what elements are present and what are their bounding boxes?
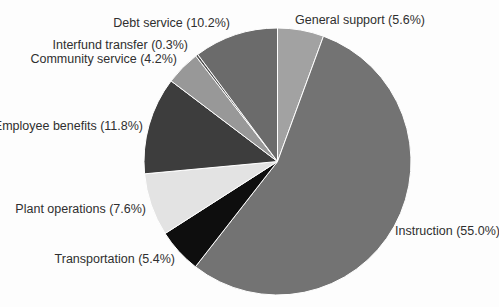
pie-label-employee-benefits: Employee benefits (11.8%): [0, 119, 143, 133]
pie-label-general-support: General support (5.6%): [295, 13, 425, 27]
pie-label-plant-operations: Plant operations (7.6%): [15, 202, 146, 216]
pie-label-instruction: Instruction (55.0%): [395, 224, 499, 238]
pie-label-debt-service: Debt service (10.2%): [113, 16, 230, 30]
pie-label-community-service: Community service (4.2%): [30, 52, 177, 66]
pie-chart-figure: Debt service (10.2%) General support (5.…: [0, 0, 499, 307]
pie-label-interfund-transfer: Interfund transfer (0.3%): [53, 38, 188, 52]
pie-label-transportation: Transportation (5.4%): [55, 252, 175, 266]
